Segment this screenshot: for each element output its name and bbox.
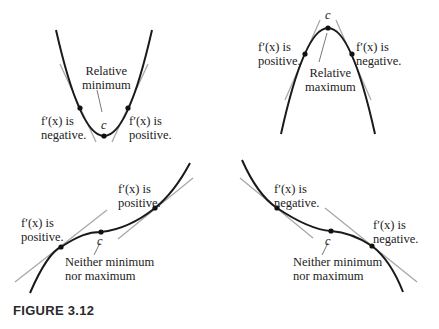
label-line: f′(x) is bbox=[21, 216, 64, 230]
label-line: Neither minimum bbox=[293, 255, 382, 269]
point-right bbox=[349, 51, 354, 56]
label-line: negative. bbox=[356, 54, 401, 68]
label-line: nor maximum bbox=[293, 269, 382, 283]
label-line: Relative bbox=[305, 66, 356, 80]
label-line: negative. bbox=[41, 128, 86, 142]
label-line: negative. bbox=[373, 232, 418, 246]
point-left bbox=[302, 51, 307, 56]
label-line: negative. bbox=[274, 196, 319, 210]
point-left bbox=[77, 105, 82, 110]
figure-caption: FIGURE 3.12 bbox=[13, 303, 94, 318]
label-line: positive. bbox=[21, 230, 64, 244]
label-line: nor maximum bbox=[65, 269, 154, 283]
left-derivative-label: f′(x) is positive. bbox=[258, 40, 301, 68]
label-line: f′(x) is bbox=[258, 40, 301, 54]
label-line: f′(x) is bbox=[41, 114, 86, 128]
left-derivative-label: f′(x) is positive. bbox=[21, 216, 64, 244]
label-line: positive. bbox=[118, 196, 161, 210]
point-c bbox=[328, 228, 333, 233]
point-left bbox=[58, 244, 63, 249]
point-c-label: c bbox=[325, 234, 331, 249]
point-c bbox=[101, 133, 106, 138]
label-line: minimum bbox=[82, 78, 131, 92]
leader-line bbox=[97, 90, 102, 112]
left-derivative-label: f′(x) is negative. bbox=[274, 182, 319, 210]
point-c-label: c bbox=[97, 234, 103, 249]
center-label-relative-minimum: Relative minimum bbox=[82, 64, 131, 92]
label-line: f′(x) is bbox=[373, 218, 418, 232]
label-line: f′(x) is bbox=[356, 40, 401, 54]
label-line: f′(x) is bbox=[129, 114, 172, 128]
label-line: maximum bbox=[305, 80, 356, 94]
label-line: positive. bbox=[258, 54, 301, 68]
right-derivative-label: f′(x) is negative. bbox=[373, 218, 418, 246]
label-line: Neither minimum bbox=[65, 255, 154, 269]
point-c-label: c bbox=[325, 8, 331, 23]
leader-line bbox=[319, 33, 327, 62]
right-derivative-label: f′(x) is negative. bbox=[356, 40, 401, 68]
label-line: Relative bbox=[82, 64, 131, 78]
left-derivative-label: f′(x) is negative. bbox=[41, 114, 86, 142]
center-label-relative-maximum: Relative maximum bbox=[305, 66, 356, 94]
center-label-neither: Neither minimum nor maximum bbox=[293, 255, 382, 283]
point-c-label: c bbox=[101, 118, 107, 133]
right-derivative-label: f′(x) is positive. bbox=[118, 182, 161, 210]
label-line: f′(x) is bbox=[274, 182, 319, 196]
label-line: positive. bbox=[129, 128, 172, 142]
right-derivative-label: f′(x) is positive. bbox=[129, 114, 172, 142]
label-line: f′(x) is bbox=[118, 182, 161, 196]
center-label-neither: Neither minimum nor maximum bbox=[65, 255, 154, 283]
point-right bbox=[125, 105, 130, 110]
point-c bbox=[325, 25, 330, 30]
